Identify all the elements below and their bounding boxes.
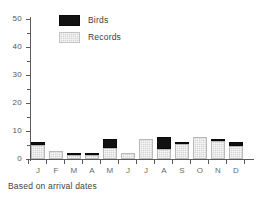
bar-chart-figure: 01020304050 JFMAMJJASOND Birds Records B… (0, 0, 266, 198)
bar-segment-records (211, 141, 225, 159)
bar-segment-records (139, 139, 153, 159)
x-axis-tick (208, 160, 209, 164)
bar-segment-records (67, 155, 81, 159)
bar-group (229, 19, 243, 159)
bar-segment-birds (31, 142, 45, 145)
bar-group (211, 19, 225, 159)
y-axis-label: 10 (13, 127, 23, 135)
x-axis-label: D (229, 166, 243, 175)
bar-segment-records (85, 155, 99, 159)
bar-segment-birds (157, 137, 171, 150)
x-axis-tick (136, 160, 137, 164)
bar-segment-records (121, 153, 135, 159)
x-axis-tick (226, 160, 227, 164)
bar-segment-birds (211, 139, 225, 141)
bar-segment-records (229, 146, 243, 159)
x-axis-tick (172, 160, 173, 164)
x-axis-label: J (139, 166, 153, 175)
legend-label-records: Records (88, 33, 121, 42)
bar-segment-birds (67, 153, 81, 155)
bar-segment-birds (103, 139, 117, 147)
y-axis-label: 30 (13, 71, 23, 79)
x-axis-ticks: JFMAMJJASOND (30, 160, 254, 178)
bar-segment-records (175, 144, 189, 159)
x-axis-tick (244, 160, 245, 164)
bar-segment-birds (85, 153, 99, 155)
x-axis-label: O (193, 166, 207, 175)
legend-label-birds: Birds (88, 16, 108, 25)
y-axis-label: 0 (17, 155, 22, 163)
x-axis-label: F (49, 166, 63, 175)
bar-group (193, 19, 207, 159)
x-axis-tick (64, 160, 65, 164)
x-axis-tick (46, 160, 47, 164)
y-axis-ticks: 01020304050 (0, 0, 30, 198)
bar-segment-records (157, 149, 171, 159)
bar-segment-records (31, 145, 45, 159)
x-axis-label: J (31, 166, 45, 175)
bar-group (31, 19, 45, 159)
legend-item-birds: Birds (59, 14, 169, 27)
y-axis-label: 40 (13, 43, 23, 51)
bar-segment-birds (175, 142, 189, 144)
x-axis-tick (118, 160, 119, 164)
gray-swatch-icon (59, 32, 80, 43)
bar-segment-records (49, 151, 63, 159)
y-axis-label: 20 (13, 99, 23, 107)
bar-segment-records (193, 137, 207, 159)
x-axis-tick (28, 160, 29, 164)
x-axis-tick (154, 160, 155, 164)
x-axis-tick (82, 160, 83, 164)
bar-segment-birds (229, 142, 243, 146)
legend-item-records: Records (59, 31, 169, 44)
x-axis-tick (190, 160, 191, 164)
x-axis-tick (100, 160, 101, 164)
x-axis-label: A (85, 166, 99, 175)
bar-group (175, 19, 189, 159)
chart-legend: Birds Records (59, 14, 169, 48)
x-axis-label: N (211, 166, 225, 175)
chart-caption: Based on arrival dates (8, 181, 97, 191)
x-axis-label: M (67, 166, 81, 175)
bar-segment-records (103, 148, 117, 159)
y-axis-label: 50 (13, 15, 23, 23)
x-axis-label: A (157, 166, 171, 175)
black-swatch-icon (59, 15, 80, 26)
x-axis-label: J (121, 166, 135, 175)
x-axis-label: M (103, 166, 117, 175)
x-axis-label: S (175, 166, 189, 175)
